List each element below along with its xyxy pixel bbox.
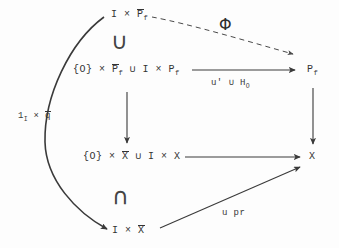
node-top-ixpbarf: I × Pf	[111, 10, 148, 22]
node-right-top-pf: Pf	[307, 65, 318, 77]
commutative-diagram: I × Pf {O} × Pf ∪ I × Pf {O} × X ∪ I × X…	[0, 0, 339, 248]
node-bottom-ixxbar: I × X	[112, 226, 145, 236]
edge-label-phi: Φ	[219, 17, 232, 33]
inclusion-symbol-lower: ∩	[112, 185, 129, 208]
node-mid-upper-union: {O} × Pf ∪ I × Pf	[73, 65, 179, 77]
curved-left-arrow	[45, 17, 107, 229]
edge-label-one-times-qbar: 1I × q	[18, 112, 51, 123]
node-right-bottom-x: X	[309, 152, 316, 162]
inclusion-symbol-upper: ∪	[111, 30, 128, 53]
node-mid-lower-union: {O} × X ∪ I × X	[83, 152, 181, 162]
edge-label-u-prime-union-h: u' ∪ HO	[211, 79, 250, 90]
edge-label-u-pr: u pr	[222, 209, 245, 218]
u-pr-arrow	[160, 167, 300, 228]
diagram-edges-layer	[0, 0, 339, 248]
